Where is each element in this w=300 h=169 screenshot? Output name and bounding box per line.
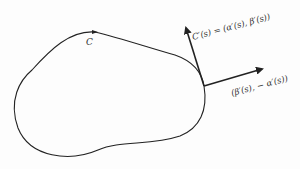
tangent-vector-label: C′(s) = (α′(s), β′(s)) — [191, 11, 271, 41]
curve-label: C — [86, 37, 93, 47]
curve-direction-marker-icon — [92, 30, 98, 34]
normal-vector-label: (β′(s), − α′(s)) — [230, 73, 289, 98]
closed-curve-c — [14, 32, 205, 156]
closed-curve-diagram: C C′(s) = (α′(s), β′(s)) (β′(s), − α′(s)… — [0, 0, 300, 169]
